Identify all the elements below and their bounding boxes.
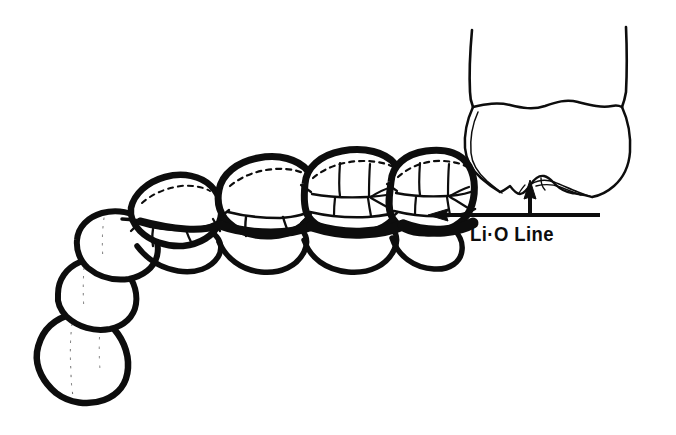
- first-molar-fissure-v2: [369, 164, 370, 196]
- second-molar-fissure-v3: [415, 197, 416, 215]
- second-molar-fissure-v1: [419, 163, 420, 195]
- dental-arch-illustration: [0, 0, 676, 435]
- figure-canvas: Li·O Line: [0, 0, 676, 435]
- first-premolar-fissure-1: [152, 229, 153, 246]
- lio-line-label: Li·O Line: [470, 222, 554, 246]
- first-molar-fissure-v3: [334, 198, 335, 216]
- first-molar-fissure-v1: [339, 163, 340, 196]
- second-molar-fissure-v2: [448, 164, 449, 195]
- first-premolar-occlusal-outline: [131, 175, 222, 246]
